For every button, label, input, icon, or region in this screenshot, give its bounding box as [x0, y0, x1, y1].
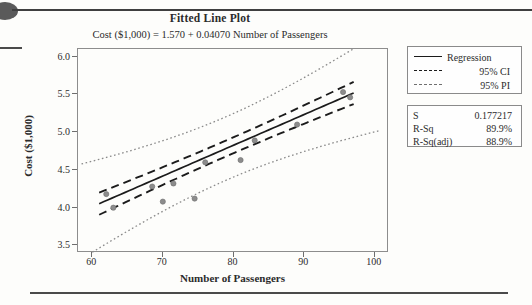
x-tick-label: 80	[213, 256, 253, 267]
page-rule-top	[12, 9, 532, 11]
x-tick-label: 70	[142, 256, 182, 267]
legend-label-regression: Regression	[443, 52, 516, 63]
legend-box: Regression 95% CI 95% PI	[407, 46, 522, 94]
stats-value-s: 0.177217	[465, 110, 516, 121]
data-point	[238, 157, 243, 162]
legend-item-ci: 95% CI	[413, 64, 516, 78]
legend-item-regression: Regression	[413, 50, 516, 64]
stats-row: R-Sq(adj) 88.9%	[413, 135, 516, 148]
confidence-interval-lower	[99, 104, 353, 215]
y-tick-label: 3.5	[36, 239, 70, 250]
legend-item-pi: 95% PI	[413, 78, 516, 92]
page-rule-left	[0, 47, 22, 49]
dashed-line-key	[413, 66, 443, 76]
legend-label-ci: 95% CI	[443, 66, 516, 77]
stats-row: R-Sq 89.9%	[413, 122, 516, 135]
data-point	[203, 160, 208, 165]
x-tick-label: 60	[71, 256, 111, 267]
plot-area	[77, 48, 388, 252]
data-point	[171, 181, 176, 186]
data-point	[150, 184, 155, 189]
data-point	[192, 196, 197, 201]
x-axis-label: Number of Passengers	[77, 272, 388, 284]
figure-root: Fitted Line Plot Cost ($1,000) = 1.570 +…	[0, 0, 532, 305]
stats-label-s: S	[413, 110, 465, 121]
data-point	[340, 89, 345, 94]
data-point	[111, 205, 116, 210]
stats-row: S 0.177217	[413, 109, 516, 122]
regression-line	[99, 93, 353, 204]
stats-value-rsq: 89.9%	[465, 123, 516, 134]
plot-canvas	[78, 49, 389, 253]
y-tick-label: 6.0	[36, 50, 70, 61]
data-point	[104, 191, 109, 196]
y-tick-label: 5.0	[36, 126, 70, 137]
legend-label-pi: 95% PI	[443, 80, 516, 91]
y-tick-label: 5.5	[36, 88, 70, 99]
data-point	[252, 138, 257, 143]
stats-value-rsqadj: 88.9%	[465, 136, 516, 147]
stats-label-rsq: R-Sq	[413, 123, 465, 134]
y-axis-label: Cost ($1,000)	[22, 76, 34, 216]
chart-title: Fitted Line Plot	[0, 12, 420, 24]
data-point	[295, 122, 300, 127]
solid-line-key	[413, 52, 443, 62]
page-rule-bottom	[30, 292, 508, 294]
y-tick-label: 4.5	[36, 163, 70, 174]
confidence-interval-upper	[99, 82, 353, 193]
dotted-line-key	[413, 80, 443, 90]
x-tick-label: 90	[283, 256, 323, 267]
data-point	[348, 95, 353, 100]
stats-box: S 0.177217 R-Sq 89.9% R-Sq(adj) 88.9%	[407, 105, 522, 147]
data-point	[160, 199, 165, 204]
chart-subtitle: Cost ($1,000) = 1.570 + 0.04070 Number o…	[0, 29, 420, 40]
y-tick-label: 4.0	[36, 201, 70, 212]
stats-label-rsqadj: R-Sq(adj)	[413, 136, 465, 147]
x-tick-label: 100	[354, 256, 394, 267]
